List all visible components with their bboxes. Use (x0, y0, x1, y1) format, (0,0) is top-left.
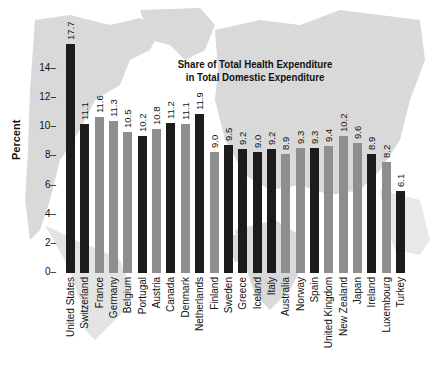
bar (109, 121, 118, 273)
category-label: Iceland (252, 277, 263, 365)
category-label: Japan (352, 277, 363, 365)
bar-value-label: 8.9 (366, 136, 377, 149)
bar (367, 154, 376, 273)
bar (123, 132, 132, 273)
bar-value-label: 8.2 (381, 145, 392, 158)
category-label: Portugal (137, 277, 148, 365)
bar-value-label: 8.9 (280, 136, 291, 149)
category-label: Germany (108, 277, 119, 365)
bar (181, 124, 190, 273)
bar (396, 191, 405, 273)
category-label: Italy (266, 277, 277, 365)
bar-value-label: 9.6 (352, 126, 363, 139)
bar (238, 149, 247, 273)
bar-value-label: 9.5 (223, 128, 234, 141)
bar-value-label: 9.2 (237, 132, 248, 145)
y-tick-label: 0– (30, 266, 56, 277)
y-axis-label: Percent (10, 120, 22, 160)
bar (310, 148, 319, 273)
bar-value-label: 11.1 (79, 103, 90, 121)
category-label: Belgium (122, 277, 133, 365)
bar (253, 152, 262, 273)
bar (166, 123, 175, 273)
category-label: Australia (280, 277, 291, 365)
bar (281, 154, 290, 273)
bar (267, 149, 276, 273)
bar (138, 136, 147, 273)
bar-value-label: 9.0 (252, 135, 263, 148)
bar (224, 145, 233, 273)
category-label: Austria (151, 277, 162, 365)
category-label: Denmark (180, 277, 191, 365)
bar (324, 146, 333, 273)
bar-value-label: 10.2 (338, 114, 349, 133)
category-label: New Zealand (338, 277, 349, 365)
category-label: United States (65, 277, 76, 365)
bar (95, 117, 104, 273)
y-tick-label: 10– (30, 120, 56, 131)
y-tick-label: 12– (30, 91, 56, 102)
y-tick-label: 4– (30, 208, 56, 219)
category-label: Spain (309, 277, 320, 365)
bar (339, 136, 348, 273)
bar-value-label: 9.2 (266, 132, 277, 145)
bar-value-label: 9.0 (209, 135, 220, 148)
category-label: Sweden (223, 277, 234, 365)
category-label: United Kingdom (323, 277, 334, 365)
chart-title-line-2: in Total Domestic Expenditure (163, 71, 348, 84)
bar-value-label: 9.3 (295, 130, 306, 143)
bar-value-label: 10.2 (137, 114, 148, 133)
category-label: Greece (237, 277, 248, 365)
bar-value-label: 11.9 (194, 92, 205, 110)
bar-value-label: 6.1 (395, 174, 406, 187)
chart-title-line-1: Share of Total Health Expenditure (163, 58, 348, 71)
category-label: Luxembourg (381, 277, 392, 365)
bar (66, 44, 75, 273)
bar-value-label: 11.1 (180, 103, 191, 121)
bar-value-label: 11.6 (94, 95, 105, 113)
chart-title: Share of Total Health Expenditure in Tot… (163, 58, 348, 84)
y-tick-label: 6– (30, 179, 56, 190)
category-label: Netherlands (194, 277, 205, 365)
category-label: Turkey (395, 277, 406, 365)
bar (353, 143, 362, 273)
bar-value-label: 9.3 (309, 130, 320, 143)
bar-value-label: 9.4 (323, 129, 334, 142)
y-tick-label: 14– (30, 62, 56, 73)
bar (152, 129, 161, 273)
category-label: France (94, 277, 105, 365)
bar-value-label: 11.3 (108, 100, 119, 118)
bar (195, 114, 204, 273)
bar (210, 152, 219, 273)
category-label: Ireland (366, 277, 377, 365)
y-tick-label: 2– (30, 237, 56, 248)
bar-value-label: 10.8 (151, 106, 162, 125)
category-label: Norway (295, 277, 306, 365)
y-tick-label: 8– (30, 149, 56, 160)
bar (296, 148, 305, 273)
category-label: Finland (209, 277, 220, 365)
category-label: Canada (165, 277, 176, 365)
bar-value-label: 11.2 (165, 101, 176, 119)
bar (382, 162, 391, 273)
bar-value-label: 17.7 (65, 22, 76, 41)
bar (80, 124, 89, 273)
bar-value-label: 10.5 (122, 109, 133, 128)
category-label: Switzerland (79, 277, 90, 365)
